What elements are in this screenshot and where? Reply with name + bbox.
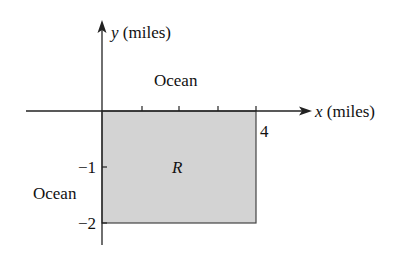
ocean-label-left: Ocean — [33, 184, 77, 203]
x-axis-unit: (miles) — [327, 102, 375, 121]
x-axis-var: x — [314, 102, 323, 121]
x-axis-label: x (miles) — [314, 102, 375, 121]
y-tick-label-neg1: −1 — [78, 158, 96, 177]
y-axis-unit: (miles) — [123, 23, 171, 42]
x-tick-label-4: 4 — [260, 122, 269, 141]
y-tick-label-neg2: −2 — [78, 214, 96, 233]
coordinate-diagram: y (miles) x (miles) 4 −1 −2 Ocean Ocean … — [0, 0, 414, 255]
region-label: R — [171, 158, 183, 177]
ocean-label-top: Ocean — [154, 71, 198, 90]
y-axis-var: y — [109, 23, 119, 42]
x-ticks — [142, 106, 256, 111]
y-axis-label: y (miles) — [109, 23, 171, 42]
